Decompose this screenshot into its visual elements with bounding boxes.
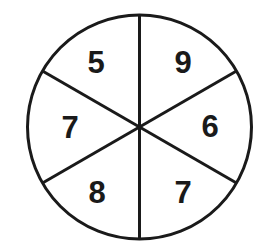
sector-top-right-value: 9 <box>174 45 191 80</box>
number-wheel-diagram: 5 9 6 7 8 7 <box>0 0 273 252</box>
sector-top-left-value: 5 <box>87 45 104 80</box>
sector-bottom-right-value: 7 <box>174 175 191 210</box>
sector-bottom-left-value: 8 <box>88 175 105 210</box>
sector-left-value: 7 <box>61 110 78 145</box>
sector-right-value: 6 <box>201 109 218 144</box>
